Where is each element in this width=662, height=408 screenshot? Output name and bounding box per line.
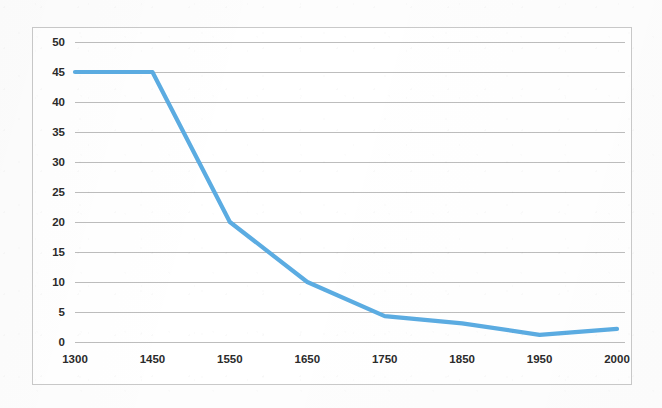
chart-frame: 05101520253035404550 1300145015501650175… xyxy=(32,27,632,385)
data-series-group xyxy=(75,72,617,335)
x-axis-tick-label: 1850 xyxy=(449,353,475,365)
x-axis-tick-labels: 13001450155016501750185019502000 xyxy=(62,353,630,365)
line-chart-plot: 05101520253035404550 1300145015501650175… xyxy=(33,28,633,386)
y-axis-tick-label: 40 xyxy=(52,96,65,108)
y-axis-tick-label: 15 xyxy=(52,246,65,258)
y-axis-tick-label: 50 xyxy=(52,36,65,48)
y-axis-tick-label: 10 xyxy=(52,276,65,288)
y-axis-tick-label: 45 xyxy=(52,66,65,78)
y-axis-tick-label: 20 xyxy=(52,216,65,228)
x-axis-tick-label: 1750 xyxy=(372,353,398,365)
x-axis-tick-label: 1300 xyxy=(62,353,88,365)
y-axis-tick-label: 25 xyxy=(52,186,65,198)
x-axis-tick-label: 1650 xyxy=(294,353,320,365)
y-axis-tick-label: 0 xyxy=(59,336,65,348)
x-axis-tick-label: 2000 xyxy=(604,353,630,365)
x-axis-tick-label: 1950 xyxy=(527,353,553,365)
y-axis-tick-label: 5 xyxy=(59,306,66,318)
x-axis-tick-label: 1550 xyxy=(217,353,243,365)
gridlines-group xyxy=(75,43,625,343)
x-axis-tick-label: 1450 xyxy=(140,353,166,365)
y-axis-tick-label: 30 xyxy=(52,156,65,168)
y-axis-tick-labels: 05101520253035404550 xyxy=(52,36,65,348)
y-axis-tick-label: 35 xyxy=(52,126,65,138)
data-line-series xyxy=(75,72,617,335)
